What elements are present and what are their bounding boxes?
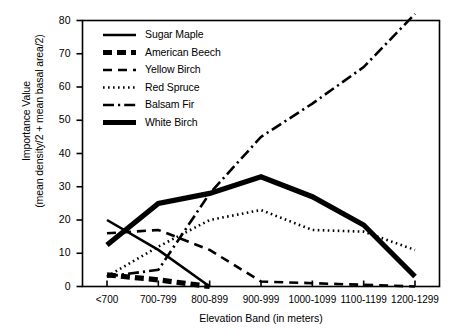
series-line-balsam-fir <box>107 14 415 277</box>
series-line-white-birch <box>107 177 415 277</box>
plot-area <box>0 0 470 336</box>
legend-swatch-group <box>103 35 136 123</box>
series-line-red-spruce <box>107 210 415 276</box>
data-series-group <box>107 14 415 287</box>
chart-figure: Importance Value (mean density/2 + mean … <box>0 0 470 336</box>
y-tick-marks <box>77 21 83 287</box>
